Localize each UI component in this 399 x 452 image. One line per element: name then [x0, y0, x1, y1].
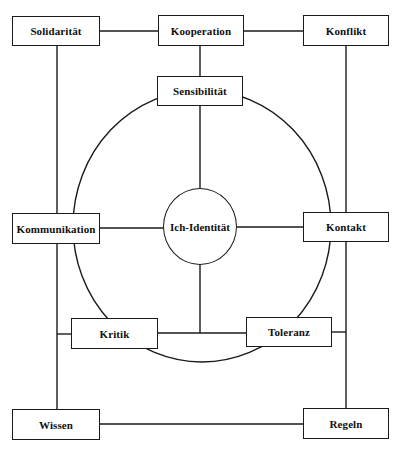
node-kooperation: Kooperation	[158, 15, 244, 46]
node-solidaritaet: Solidarität	[12, 16, 100, 46]
diagram: Solidarität Kooperation Konflikt Sensibi…	[0, 0, 399, 452]
node-label: Ich-Identität	[170, 221, 230, 233]
node-wissen: Wissen	[12, 409, 100, 440]
node-label: Regeln	[330, 418, 363, 430]
node-sensibilitaet: Sensibilität	[157, 76, 243, 106]
node-konflikt: Konflikt	[303, 15, 389, 46]
node-kommunikation: Kommunikation	[12, 213, 100, 244]
node-label: Sensibilität	[173, 85, 227, 97]
node-label: Solidarität	[30, 25, 81, 37]
node-kritik: Kritik	[71, 318, 158, 349]
node-toleranz: Toleranz	[246, 317, 332, 347]
node-kontakt: Kontakt	[303, 212, 389, 242]
node-label: Kontakt	[326, 221, 366, 233]
node-label: Wissen	[39, 419, 73, 431]
node-label: Toleranz	[268, 326, 310, 338]
node-label: Kommunikation	[17, 223, 96, 235]
node-label: Konflikt	[326, 25, 367, 37]
node-ich-identitaet: Ich-Identität	[163, 188, 237, 265]
node-label: Kooperation	[171, 25, 231, 37]
node-label: Kritik	[100, 328, 130, 340]
node-regeln: Regeln	[303, 408, 389, 439]
